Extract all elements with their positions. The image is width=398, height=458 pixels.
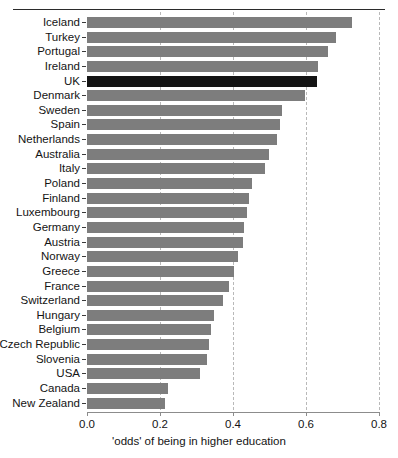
bar: [87, 339, 209, 350]
plot-area: IcelandTurkeyPortugalIrelandUKDenmarkSwe…: [87, 16, 379, 410]
y-axis-tick-mark: [82, 286, 86, 287]
y-axis-tick-label: Austria: [44, 236, 80, 249]
bar-row: Hungary: [87, 309, 379, 322]
bar-row: Netherlands: [87, 133, 379, 146]
bar-row: Luxembourg: [87, 206, 379, 219]
bar: [87, 178, 252, 189]
bar-row: Denmark: [87, 89, 379, 102]
bar-row: Canada: [87, 382, 379, 395]
y-axis-tick-label: Greece: [42, 265, 80, 278]
bar: [87, 383, 168, 394]
gridline: [379, 12, 380, 410]
y-axis-tick-label: USA: [56, 367, 80, 380]
y-axis-tick-mark: [82, 37, 86, 38]
x-axis-tick-label: 0.6: [298, 418, 314, 430]
y-axis-tick-label: Netherlands: [18, 133, 80, 146]
bar-row: Czech Republic: [87, 338, 379, 351]
y-axis-tick-mark: [82, 198, 86, 199]
y-axis-tick-label: Luxembourg: [16, 206, 80, 219]
y-axis-tick-mark: [82, 66, 86, 67]
bar: [87, 266, 234, 277]
y-axis-tick-mark: [82, 212, 86, 213]
bar: [87, 398, 165, 409]
bar-row: Turkey: [87, 31, 379, 44]
bar: [87, 17, 352, 28]
bar: [87, 61, 318, 72]
bar: [87, 295, 223, 306]
bar: [87, 251, 238, 262]
bar-row: New Zealand: [87, 397, 379, 410]
x-axis-tick-label: 0.8: [371, 418, 387, 430]
y-axis-tick-mark: [82, 256, 86, 257]
y-axis-tick-label: Germany: [33, 221, 80, 234]
y-axis-tick-mark: [82, 227, 86, 228]
bar-row: USA: [87, 367, 379, 380]
bar: [87, 76, 317, 87]
bar-row: Italy: [87, 162, 379, 175]
y-axis-tick-mark: [82, 183, 86, 184]
bar: [87, 32, 336, 43]
y-axis-tick-mark: [82, 168, 86, 169]
y-axis-tick-label: Turkey: [45, 31, 80, 44]
y-axis-tick-mark: [82, 315, 86, 316]
bar-row: Iceland: [87, 16, 379, 29]
y-axis-tick-mark: [82, 373, 86, 374]
y-axis-tick-label: Belgium: [38, 323, 80, 336]
bar-row: Slovenia: [87, 353, 379, 366]
bar-row: Austria: [87, 236, 379, 249]
y-axis-tick-mark: [82, 95, 86, 96]
bar: [87, 368, 200, 379]
bar-row: Germany: [87, 221, 379, 234]
y-axis-tick-mark: [82, 344, 86, 345]
y-axis-tick-label: Spain: [51, 118, 80, 131]
y-axis-tick-mark: [82, 329, 86, 330]
bar-row: UK: [87, 75, 379, 88]
y-axis-tick-mark: [82, 271, 86, 272]
bar-row: Poland: [87, 177, 379, 190]
x-axis-tick-label: 0.4: [225, 418, 241, 430]
bar: [87, 105, 282, 116]
y-axis-tick-label: Denmark: [33, 89, 80, 102]
bar: [87, 149, 269, 160]
bar-row: Australia: [87, 148, 379, 161]
y-axis-tick-label: Slovenia: [36, 353, 80, 366]
y-axis-tick-mark: [82, 154, 86, 155]
x-axis-tick-mark: [233, 412, 234, 416]
bar: [87, 134, 277, 145]
y-axis-tick-mark: [82, 110, 86, 111]
bar-row: Norway: [87, 250, 379, 263]
bar: [87, 281, 229, 292]
y-axis-tick-label: Iceland: [43, 16, 80, 29]
y-axis-tick-mark: [82, 22, 86, 23]
x-axis-tick-label: 0.2: [152, 418, 168, 430]
header-rule: [13, 9, 385, 10]
bar-rows: IcelandTurkeyPortugalIrelandUKDenmarkSwe…: [87, 16, 379, 410]
y-axis-tick-label: Hungary: [37, 309, 80, 322]
y-axis-tick-label: France: [44, 280, 80, 293]
y-axis-tick-label: UK: [64, 75, 80, 88]
x-axis-tick-mark: [379, 412, 380, 416]
bar: [87, 90, 305, 101]
bar: [87, 163, 265, 174]
y-axis-tick-mark: [82, 403, 86, 404]
y-axis-tick-mark: [82, 242, 86, 243]
bar: [87, 310, 214, 321]
y-axis-tick-mark: [82, 359, 86, 360]
bar: [87, 222, 244, 233]
y-axis-tick-label: Australia: [35, 148, 80, 161]
bar-row: Belgium: [87, 323, 379, 336]
bar-row: Sweden: [87, 104, 379, 117]
bar-row: France: [87, 280, 379, 293]
y-axis-tick-label: Portugal: [37, 45, 80, 58]
y-axis-tick-label: Italy: [59, 162, 80, 175]
y-axis-tick-mark: [82, 139, 86, 140]
y-axis-tick-mark: [82, 51, 86, 52]
bar-row: Spain: [87, 118, 379, 131]
y-axis-tick-label: Czech Republic: [0, 338, 80, 351]
x-axis-tick-mark: [87, 412, 88, 416]
y-axis-tick-mark: [82, 124, 86, 125]
bar: [87, 207, 247, 218]
bar: [87, 237, 243, 248]
x-axis-tick-label: 0.0: [79, 418, 95, 430]
x-axis-tick-mark: [306, 412, 307, 416]
